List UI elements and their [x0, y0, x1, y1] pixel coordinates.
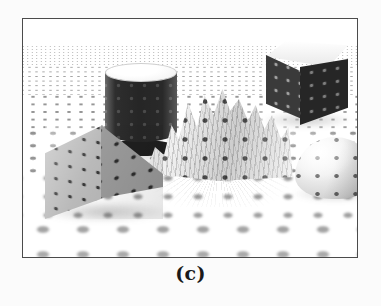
pyramid-object: [45, 125, 163, 219]
cube-right-face-texture: [300, 59, 348, 125]
terrain-surface: [143, 81, 293, 181]
pyramid-right-face-texture: [101, 125, 163, 219]
ground-band-foreground: [23, 217, 357, 257]
pyramid-right-face: [101, 125, 163, 219]
hemisphere-body: [295, 137, 357, 199]
figure-caption: (c): [0, 262, 381, 284]
rendered-3d-scene: [23, 19, 357, 257]
pyramid-left-face-texture: [45, 125, 103, 219]
terrain-shading: [143, 81, 293, 181]
pyramid-left-face: [45, 125, 103, 219]
hemisphere-object: [295, 137, 357, 199]
terrain-object: [143, 81, 293, 207]
figure-panel: [22, 18, 358, 258]
cube-right-face: [300, 59, 348, 125]
cylinder-top-cap: [105, 63, 177, 82]
hemisphere-shading: [295, 137, 357, 199]
